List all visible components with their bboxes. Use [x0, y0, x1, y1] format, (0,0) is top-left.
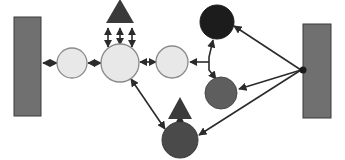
diagram-canvas	[0, 0, 345, 160]
wall-right	[303, 24, 331, 118]
dark-node-bottom[interactable]	[162, 122, 198, 158]
light-node-3[interactable]	[156, 46, 188, 78]
gray-node-right[interactable]	[205, 77, 237, 109]
wall-left	[14, 17, 41, 116]
light-node-2[interactable]	[101, 44, 139, 82]
diagram-svg	[0, 0, 345, 160]
black-node-top-right[interactable]	[200, 5, 234, 39]
light-node-1[interactable]	[57, 48, 87, 78]
right-wall-junction-dot	[300, 67, 307, 74]
